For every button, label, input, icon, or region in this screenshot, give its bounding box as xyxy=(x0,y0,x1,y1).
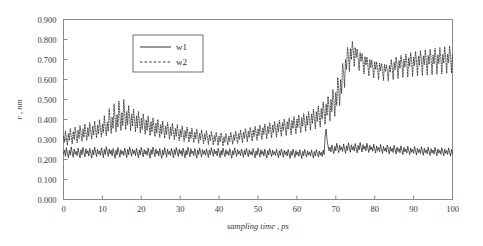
x-tick-label: 50 xyxy=(254,204,263,214)
y-tick-label: 0.700 xyxy=(37,55,56,65)
chart-canvas: 0.0000.1000.2000.3000.4000.5000.6000.700… xyxy=(0,0,483,246)
x-tick-label: 20 xyxy=(137,204,146,214)
y-tick-label: 0.300 xyxy=(37,135,56,145)
x-axis-title: sampling time , ps xyxy=(227,221,290,231)
x-axis-ticks xyxy=(64,196,453,200)
x-tick-label: 70 xyxy=(332,204,341,214)
y-tick-label: 0.400 xyxy=(37,115,56,125)
x-tick-label: 60 xyxy=(293,204,302,214)
y-tick-label: 0.600 xyxy=(37,75,56,85)
x-tick-label: 90 xyxy=(409,204,418,214)
x-tick-label: 80 xyxy=(370,204,379,214)
x-tick-label: 40 xyxy=(215,204,224,214)
y-tick-label: 0.200 xyxy=(37,155,56,165)
plot-frame xyxy=(64,20,453,200)
y-tick-label: 0.800 xyxy=(37,35,56,45)
x-axis-tick-labels: 0102030405060708090100 xyxy=(61,204,459,214)
series-line-w1 xyxy=(64,129,453,158)
series-layer xyxy=(64,42,453,159)
legend-box xyxy=(133,35,203,72)
x-tick-label: 100 xyxy=(446,204,459,214)
y-tick-label: 0.900 xyxy=(37,15,56,25)
y-tick-label: 0.100 xyxy=(37,175,56,185)
chart-legend: w1 w2 xyxy=(133,35,203,72)
y-axis-tick-labels: 0.0000.1000.2000.3000.4000.5000.6000.700… xyxy=(37,15,56,205)
chart-figure: 0.0000.1000.2000.3000.4000.5000.6000.700… xyxy=(0,0,483,246)
y-tick-label: 0.000 xyxy=(37,195,56,205)
x-tick-label: 30 xyxy=(176,204,185,214)
legend-label-w2: w2 xyxy=(176,57,187,67)
x-tick-label: 10 xyxy=(98,204,107,214)
y-axis-ticks xyxy=(64,20,68,200)
y-tick-label: 0.500 xyxy=(37,95,56,105)
legend-label-w1: w1 xyxy=(176,42,187,52)
y-axis-title: r , nm xyxy=(14,99,24,119)
x-tick-label: 0 xyxy=(61,204,65,214)
series-line-w2 xyxy=(64,42,453,146)
